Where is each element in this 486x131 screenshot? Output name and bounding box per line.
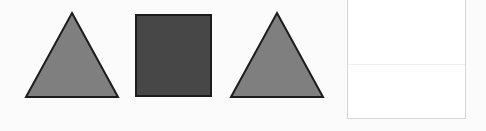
- square-shape-middle[interactable]: [135, 14, 213, 98]
- triangle-polygon: [231, 13, 323, 97]
- square-polygon: [136, 15, 211, 96]
- triangle-icon: [24, 11, 120, 99]
- triangle-shape-right[interactable]: [229, 11, 325, 99]
- panel-divider: [348, 64, 465, 65]
- triangle-shape-left[interactable]: [24, 11, 120, 99]
- blank-panel[interactable]: [347, 0, 466, 119]
- square-icon: [135, 14, 213, 98]
- shapes-canvas: [0, 0, 486, 131]
- triangle-polygon: [26, 13, 118, 97]
- triangle-icon: [229, 11, 325, 99]
